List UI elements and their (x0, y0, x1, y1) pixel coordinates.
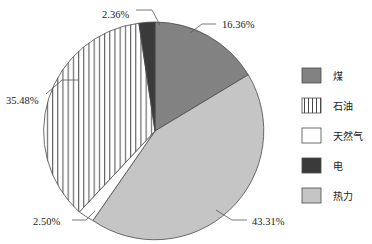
pie-label-oil: 35.48% (6, 95, 39, 106)
legend-label-electricity: 电 (333, 160, 343, 172)
pie-chart-figure: 2.36% 16.36% 35.48% 2.50% 43.31% 煤 石油 天然… (0, 0, 372, 244)
legend-item-heat[interactable]: 热力 (302, 188, 353, 203)
legend-swatch-heat (302, 188, 321, 203)
chart-legend: 煤 石油 天然气 电 热力 (302, 68, 363, 203)
pie-chart-svg: 2.36% 16.36% 35.48% 2.50% 43.31% 煤 石油 天然… (0, 0, 372, 244)
legend-swatch-natural-gas (302, 128, 321, 143)
pie-slices (44, 22, 264, 240)
legend-label-oil: 石油 (333, 100, 353, 112)
legend-item-coal[interactable]: 煤 (302, 68, 343, 83)
legend-label-coal: 煤 (333, 70, 343, 82)
pie-label-natural-gas: 2.50% (33, 216, 60, 227)
legend-swatch-coal (302, 68, 321, 83)
legend-item-oil[interactable]: 石油 (302, 98, 353, 113)
pie-label-coal: 16.36% (222, 19, 255, 30)
legend-label-natural-gas: 天然气 (333, 130, 363, 142)
legend-item-natural-gas[interactable]: 天然气 (302, 128, 363, 143)
pie-label-heat: 43.31% (252, 216, 285, 227)
legend-item-electricity[interactable]: 电 (302, 158, 343, 173)
legend-label-heat: 热力 (333, 190, 353, 202)
pie-label-electricity: 2.36% (102, 9, 129, 20)
legend-swatch-electricity (302, 158, 321, 173)
legend-swatch-oil (302, 98, 321, 113)
